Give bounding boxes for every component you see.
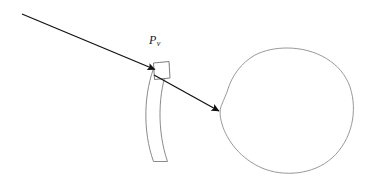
- incident-ray: [22, 14, 155, 70]
- label-pv: Pv: [149, 31, 160, 48]
- reflected-ray: [154, 75, 219, 111]
- circular-body: [220, 48, 353, 173]
- label-pv-subscript: v: [157, 39, 161, 48]
- ray-diagram-svg: [0, 0, 370, 184]
- label-pv-base: P: [149, 33, 156, 47]
- figure-canvas: Pv: [0, 0, 370, 184]
